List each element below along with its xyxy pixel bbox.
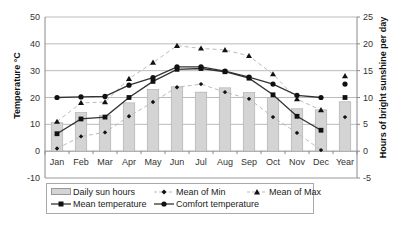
right-tick-label: 15 xyxy=(363,66,373,76)
triangle-marker-icon xyxy=(150,60,156,65)
x-tick-label: Aug xyxy=(217,157,233,167)
circle-marker-icon xyxy=(198,64,203,69)
circle-line-icon xyxy=(154,200,174,208)
circle-marker-icon xyxy=(294,93,299,98)
right-tick-label: 10 xyxy=(363,93,373,103)
x-tick-label: Dec xyxy=(313,157,330,167)
x-tick-label: Jan xyxy=(50,157,65,167)
x-tick-label: Jul xyxy=(195,157,207,167)
left-tick-label: 20 xyxy=(30,93,40,103)
square-marker-icon xyxy=(271,92,276,97)
sun-hours-bar xyxy=(267,98,279,152)
right-tick-label: 20 xyxy=(363,39,373,49)
legend-item-mean-max: Mean of Max xyxy=(247,187,321,197)
x-tick-label: May xyxy=(144,157,162,167)
square-marker-icon xyxy=(319,128,324,133)
square-marker-icon xyxy=(55,131,60,136)
legend-item-mean-temp: Mean temperature xyxy=(51,199,147,209)
bar-swatch-icon xyxy=(51,188,71,196)
square-marker-icon xyxy=(295,114,300,119)
right-tick-label: -5 xyxy=(363,173,371,183)
square-marker-icon xyxy=(79,117,84,122)
sun-hours-bar xyxy=(339,102,351,151)
left-tick-label: 10 xyxy=(30,119,40,129)
sun-hours-bar xyxy=(171,87,183,151)
square-marker-icon xyxy=(127,95,132,100)
x-tick-label: Apr xyxy=(122,157,136,167)
left-tick-label: 0 xyxy=(35,146,40,156)
circle-marker-icon xyxy=(342,81,347,86)
sun-hours-bar xyxy=(195,92,207,151)
circle-marker-icon xyxy=(222,69,227,74)
left-tick-label: -10 xyxy=(27,173,40,183)
diamond-line-icon xyxy=(154,188,174,196)
left-axis-title: Temperature °C xyxy=(12,52,22,119)
x-tick-label: Oct xyxy=(266,157,281,167)
circle-marker-icon xyxy=(318,95,323,100)
x-tick-label: Nov xyxy=(289,157,306,167)
series-line xyxy=(57,46,321,122)
sun-hours-bar xyxy=(123,103,135,151)
circle-marker-icon xyxy=(78,94,83,99)
triangle-marker-icon xyxy=(126,76,132,81)
x-tick-label: Feb xyxy=(73,157,89,167)
circle-marker-icon xyxy=(126,83,131,88)
legend-item-mean-min: Mean of Min xyxy=(154,187,226,197)
series-line xyxy=(57,84,321,150)
triangle-marker-icon xyxy=(78,100,84,105)
left-tick-label: 40 xyxy=(30,39,40,49)
x-tick-label: Jun xyxy=(170,157,185,167)
square-marker-icon xyxy=(103,115,108,120)
right-tick-label: 5 xyxy=(363,119,368,129)
triangle-line-icon xyxy=(247,188,267,196)
right-tick-label: 0 xyxy=(363,146,368,156)
legend-item-sun-hours: Daily sun hours xyxy=(51,187,135,197)
sun-hours-bar xyxy=(243,93,255,151)
left-tick-label: 50 xyxy=(30,12,40,22)
diamond-marker-icon xyxy=(199,82,203,86)
circle-marker-icon xyxy=(54,95,59,100)
circle-marker-icon xyxy=(102,94,107,99)
right-tick-label: 25 xyxy=(363,12,373,22)
chart-legend: Daily sun hours Mean of Min Mean of Max … xyxy=(46,183,314,214)
right-axis-title: Hours of bright sunshine per day xyxy=(378,17,388,159)
square-marker-icon xyxy=(343,95,348,100)
triangle-marker-icon xyxy=(342,73,348,78)
circle-marker-icon xyxy=(150,75,155,80)
sun-hours-bar xyxy=(219,88,231,151)
x-tick-label: Mar xyxy=(97,157,113,167)
sun-hours-bar xyxy=(147,89,159,151)
x-tick-label: Sep xyxy=(241,157,257,167)
x-tick-label: Year xyxy=(336,157,354,167)
legend-item-comfort-temp: Comfort temperature xyxy=(154,199,259,209)
circle-marker-icon xyxy=(270,81,275,86)
left-tick-label: 30 xyxy=(30,66,40,76)
circle-marker-icon xyxy=(174,64,179,69)
square-line-icon xyxy=(51,200,71,208)
circle-marker-icon xyxy=(246,75,251,80)
